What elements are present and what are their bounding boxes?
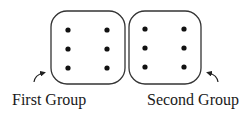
second-group: [129, 11, 218, 84]
first-group: [34, 11, 125, 84]
dot: [104, 65, 109, 70]
dot: [181, 64, 186, 69]
second-group-arrow-icon: [209, 73, 218, 82]
dot: [181, 26, 186, 31]
dot: [142, 26, 147, 31]
dot: [142, 64, 147, 69]
dot: [65, 46, 70, 51]
first-group-arrow-icon: [34, 73, 43, 82]
first-group-label: First Group: [12, 92, 86, 108]
second-group-label: Second Group: [147, 92, 239, 108]
dot: [65, 27, 70, 32]
second-group-box: [129, 11, 201, 84]
dot: [142, 45, 147, 50]
diagram-canvas: First Group Second Group: [0, 0, 247, 116]
first-group-box: [51, 11, 125, 84]
second-group-dots: [142, 26, 186, 69]
dot: [65, 65, 70, 70]
dot: [104, 46, 109, 51]
first-group-dots: [65, 27, 109, 70]
dot: [104, 27, 109, 32]
dot: [181, 45, 186, 50]
